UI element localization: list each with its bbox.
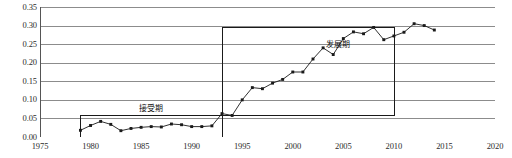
data-point-marker: [180, 123, 183, 126]
data-point-marker: [271, 82, 274, 85]
data-point-marker: [291, 71, 294, 74]
data-point-marker: [261, 87, 264, 90]
data-point-marker: [160, 126, 163, 129]
data-point-marker: [241, 98, 244, 101]
y-tick-label: 0.20: [3, 58, 37, 67]
data-point-marker: [403, 31, 406, 34]
data-point-marker: [109, 123, 112, 126]
data-point-marker: [190, 125, 193, 128]
data-point-marker: [130, 127, 133, 130]
y-tick-label: 0.00: [3, 133, 37, 142]
data-point-marker: [362, 32, 365, 35]
x-tick-label: 2000: [273, 142, 313, 151]
data-point-marker: [89, 124, 92, 127]
data-point-marker: [150, 125, 153, 128]
annotation-label-acceptance-period: 接受期: [126, 104, 176, 113]
data-point-marker: [210, 124, 213, 127]
x-tick-label: 2020: [475, 142, 512, 151]
data-line-series-1: [80, 24, 434, 131]
annotation-label-development-period: 发展期: [313, 40, 363, 49]
data-point-marker: [392, 35, 395, 38]
y-axis-tick-labels: 0.000.050.100.150.200.250.300.35: [0, 0, 37, 158]
x-tick-label: 1980: [71, 142, 111, 151]
data-point-marker: [433, 29, 436, 32]
data-point-marker: [301, 71, 304, 74]
data-point-marker: [231, 114, 234, 117]
data-point-marker: [200, 125, 203, 128]
data-point-marker: [352, 30, 355, 33]
data-point-marker: [332, 53, 335, 56]
data-point-marker: [221, 112, 224, 115]
x-tick-label: 1985: [121, 142, 161, 151]
x-tick-label: 1975: [20, 142, 60, 151]
data-point-marker: [312, 58, 315, 61]
annotation-rect-development-period: [223, 28, 395, 115]
data-point-marker: [119, 129, 122, 132]
x-tick-label: 1995: [222, 142, 262, 151]
data-point-marker: [281, 78, 284, 81]
plot-area: [40, 7, 495, 137]
y-tick-label: 0.15: [3, 77, 37, 86]
y-tick-label: 0.35: [3, 3, 37, 12]
data-point-marker: [423, 24, 426, 27]
data-point-marker: [79, 129, 82, 132]
data-point-marker: [140, 126, 143, 129]
x-axis-tick-labels: 1975198019851990199520002005201020152020: [0, 142, 512, 156]
y-tick-label: 0.25: [3, 40, 37, 49]
data-point-marker: [251, 86, 254, 89]
y-tick-label: 0.05: [3, 114, 37, 123]
y-tick-label: 0.10: [3, 95, 37, 104]
data-point-marker: [413, 22, 416, 25]
plot-svg: [40, 7, 495, 137]
x-tick-label: 2015: [424, 142, 464, 151]
x-tick-label: 2010: [374, 142, 414, 151]
data-point-marker: [372, 26, 375, 29]
data-point-marker: [382, 38, 385, 41]
data-point-marker: [99, 120, 102, 123]
x-tick-label: 1990: [172, 142, 212, 151]
data-point-marker: [170, 123, 173, 126]
line-chart: 0.000.050.100.150.200.250.300.35 1975198…: [0, 0, 512, 158]
y-tick-label: 0.30: [3, 21, 37, 30]
x-tick-label: 2005: [323, 142, 363, 151]
